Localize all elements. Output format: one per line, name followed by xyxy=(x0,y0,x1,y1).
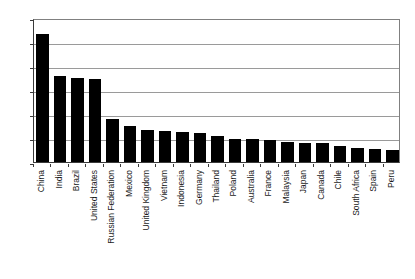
bar xyxy=(316,143,329,162)
bar xyxy=(246,139,259,162)
bar xyxy=(264,140,277,162)
bar-slot xyxy=(34,20,51,162)
x-axis-tick-mark xyxy=(190,164,191,167)
y-axis-tick-mark xyxy=(30,44,34,45)
bar-slot xyxy=(314,20,331,162)
x-axis-tick-mark xyxy=(50,164,51,167)
bar-slot xyxy=(121,20,138,162)
x-axis-tick-label: Peru xyxy=(387,170,396,188)
bars-group xyxy=(34,20,399,162)
y-axis-tick-mark xyxy=(30,92,34,93)
bar-chart: 020406080100120 ChinaIndiaBrazilUnited S… xyxy=(0,0,415,279)
bar xyxy=(334,146,347,162)
y-axis-tick-mark xyxy=(30,116,34,117)
bar xyxy=(299,143,312,162)
x-axis-tick-mark xyxy=(330,164,331,167)
x-axis-tick-label: Malaysia xyxy=(282,170,291,204)
bar xyxy=(124,126,137,162)
bar xyxy=(141,130,154,162)
bar xyxy=(386,150,399,162)
x-axis-tick-label: India xyxy=(55,170,64,188)
bar-slot xyxy=(226,20,243,162)
bar-slot xyxy=(191,20,208,162)
x-axis-tick-label: Spain xyxy=(369,170,378,192)
x-axis-tick-label: China xyxy=(37,170,46,192)
x-axis-tick-mark xyxy=(365,164,366,167)
x-axis-tick-label: Russian Federation xyxy=(107,170,116,244)
x-axis-tick-label: Thailand xyxy=(212,170,221,203)
plot-area xyxy=(33,19,400,163)
x-axis-tick-mark xyxy=(348,164,349,167)
x-axis-tick-mark xyxy=(138,164,139,167)
x-axis-tick-label: Indonesia xyxy=(177,170,186,207)
x-axis-tick-mark xyxy=(33,164,34,167)
x-axis-tick-label: United States xyxy=(90,170,99,221)
bar xyxy=(194,133,207,162)
bar xyxy=(211,136,224,162)
x-axis-tick-label: Vietnam xyxy=(160,170,169,201)
x-axis-tick-label: France xyxy=(264,170,273,196)
bar-slot xyxy=(366,20,383,162)
bar xyxy=(351,148,364,162)
x-axis-tick-label: Brazil xyxy=(72,170,81,191)
bar-slot xyxy=(86,20,103,162)
bar xyxy=(176,132,189,162)
x-axis-tick-label: Mexico xyxy=(125,170,134,197)
bar xyxy=(369,149,382,162)
bar-slot xyxy=(51,20,68,162)
bar-slot xyxy=(244,20,261,162)
y-axis-tick-mark xyxy=(30,20,34,21)
bar-slot xyxy=(69,20,86,162)
bar xyxy=(89,79,102,162)
x-axis-tick-mark xyxy=(225,164,226,167)
x-axis-tick-label: South Africa xyxy=(352,170,361,216)
bar-slot xyxy=(384,20,401,162)
x-axis-tick-mark xyxy=(155,164,156,167)
bar-slot xyxy=(104,20,121,162)
x-axis-tick-mark xyxy=(260,164,261,167)
bar xyxy=(54,76,67,162)
x-axis-tick-mark xyxy=(68,164,69,167)
bar-slot xyxy=(261,20,278,162)
bar xyxy=(71,78,84,162)
x-axis-tick-label: Chile xyxy=(334,170,343,189)
x-axis-tick-label: Australia xyxy=(247,170,256,203)
bar xyxy=(159,131,172,162)
x-axis-tick-label: Canada xyxy=(317,170,326,200)
bar-slot xyxy=(331,20,348,162)
bar-slot xyxy=(139,20,156,162)
bar xyxy=(229,139,242,162)
x-axis-tick-mark xyxy=(173,164,174,167)
x-axis-tick-label: United Kingdom xyxy=(142,170,151,230)
y-axis-tick-mark xyxy=(30,140,34,141)
y-axis-tick-mark xyxy=(30,68,34,69)
bar-slot xyxy=(156,20,173,162)
x-axis-tick-label: Germany xyxy=(195,170,204,205)
x-axis-tick-mark xyxy=(278,164,279,167)
x-axis-tick-mark xyxy=(295,164,296,167)
x-axis-tick-label: Poland xyxy=(229,170,238,196)
bar-slot xyxy=(349,20,366,162)
bar-slot xyxy=(174,20,191,162)
bar-slot xyxy=(209,20,226,162)
x-axis-tick-mark xyxy=(103,164,104,167)
bar-slot xyxy=(279,20,296,162)
bar-slot xyxy=(296,20,313,162)
x-axis-tick-mark xyxy=(85,164,86,167)
x-axis-tick-mark xyxy=(243,164,244,167)
x-axis-tick-mark xyxy=(383,164,384,167)
bar xyxy=(36,34,49,162)
bar xyxy=(106,119,119,162)
x-axis-tick-mark xyxy=(208,164,209,167)
bar xyxy=(281,142,294,162)
x-axis-tick-mark xyxy=(120,164,121,167)
x-axis-tick-label: Japan xyxy=(299,170,308,193)
x-axis-tick-mark xyxy=(313,164,314,167)
